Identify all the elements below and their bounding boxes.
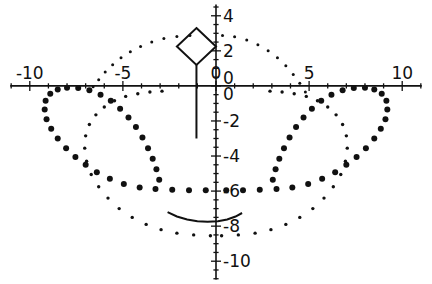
- x-tick-label: -5: [114, 63, 131, 83]
- data-point: [48, 126, 54, 132]
- data-point: [256, 43, 259, 46]
- data-point: [345, 134, 348, 137]
- data-point: [90, 173, 93, 176]
- data-point: [55, 135, 61, 141]
- data-point: [83, 146, 86, 149]
- data-point: [113, 99, 116, 102]
- data-point: [274, 186, 280, 192]
- data-point: [382, 116, 388, 122]
- data-point: [209, 234, 212, 237]
- data-point: [144, 223, 147, 226]
- data-point: [47, 91, 53, 97]
- data-point: [334, 113, 337, 116]
- y-tick-label: -10: [223, 251, 251, 271]
- data-point: [103, 105, 106, 108]
- data-point: [63, 145, 69, 151]
- data-point: [136, 92, 139, 95]
- data-point: [133, 124, 139, 130]
- data-point: [341, 123, 344, 126]
- y-tick-label: 4: [223, 6, 234, 26]
- data-point: [340, 87, 346, 93]
- x-tick-label: -10: [16, 63, 44, 83]
- data-point: [351, 85, 357, 91]
- data-point: [72, 154, 78, 160]
- data-point: [44, 116, 50, 122]
- data-point: [97, 78, 100, 81]
- data-point: [88, 123, 91, 126]
- data-point: [316, 99, 319, 102]
- data-point: [280, 90, 283, 93]
- data-point: [192, 233, 195, 236]
- data-point: [378, 126, 384, 132]
- data-point: [98, 92, 104, 98]
- data-point: [240, 187, 246, 193]
- data-point: [64, 85, 70, 91]
- data-point: [117, 207, 120, 210]
- y-tick-label: -6: [223, 181, 240, 201]
- data-point: [292, 73, 295, 76]
- data-point: [86, 87, 92, 93]
- data-point: [120, 56, 123, 59]
- y-tick-label: -8: [223, 216, 240, 236]
- data-point: [245, 38, 248, 41]
- data-point: [305, 95, 308, 98]
- data-point: [332, 185, 335, 188]
- data-point: [269, 228, 272, 231]
- data-point: [281, 145, 287, 151]
- data-point: [309, 106, 315, 112]
- data-point: [94, 113, 97, 116]
- data-point: [289, 185, 295, 191]
- y-tick-label: 0: [223, 84, 234, 104]
- data-point: [175, 35, 178, 38]
- y-tick-label: -2: [223, 111, 240, 131]
- data-point: [75, 85, 81, 91]
- data-point: [293, 92, 296, 95]
- data-point: [328, 92, 334, 98]
- data-point: [121, 181, 127, 187]
- data-point: [156, 177, 162, 183]
- data-point: [253, 231, 256, 234]
- data-point: [339, 173, 342, 176]
- data-point: [332, 169, 338, 175]
- data-point: [175, 231, 178, 234]
- data-point: [139, 45, 142, 48]
- x-tick-label: 10: [391, 63, 413, 83]
- data-point: [84, 134, 87, 137]
- data-point: [124, 95, 127, 98]
- data-point: [106, 196, 109, 199]
- data-point: [362, 85, 368, 91]
- data-point: [43, 98, 49, 104]
- data-point: [162, 37, 165, 40]
- data-point: [293, 124, 299, 130]
- x-tick-label: 5: [304, 63, 315, 83]
- data-point: [354, 154, 360, 160]
- data-point: [153, 166, 159, 172]
- data-point: [346, 146, 349, 149]
- data-point: [268, 89, 271, 92]
- data-point: [326, 105, 329, 108]
- data-point: [276, 156, 282, 162]
- data-point: [311, 207, 314, 210]
- y-tick-label: 2: [223, 41, 234, 61]
- data-point: [384, 107, 390, 113]
- plot-figure: -10-505104200-2-4-6-8-10: [0, 0, 432, 284]
- data-point: [287, 135, 293, 141]
- data-point: [298, 82, 301, 85]
- data-point: [55, 86, 61, 92]
- data-point: [344, 160, 347, 163]
- data-point: [150, 156, 156, 162]
- data-point: [152, 186, 158, 192]
- data-point: [267, 49, 270, 52]
- data-point: [139, 135, 145, 141]
- data-point: [383, 98, 389, 104]
- y-tick-label: -4: [223, 146, 240, 166]
- x-tick-label: 0: [211, 63, 222, 83]
- data-point: [257, 187, 263, 193]
- data-point: [276, 56, 279, 59]
- data-point: [379, 91, 385, 97]
- data-point: [97, 185, 100, 188]
- plot-canvas: -10-505104200-2-4-6-8-10: [0, 0, 432, 284]
- data-point: [304, 91, 307, 94]
- data-point: [273, 166, 279, 172]
- data-point: [322, 196, 325, 199]
